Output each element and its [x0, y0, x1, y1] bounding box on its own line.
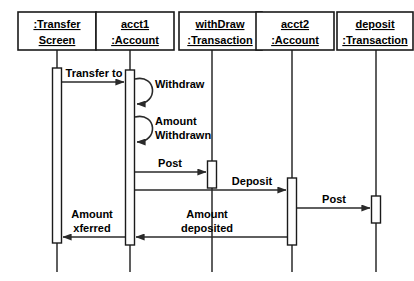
message-labels-layer: Transfer to Withdraw Amount Withdrawn Po… [66, 67, 347, 234]
activation-bar-deposit-transaction [372, 196, 381, 223]
participant-label-transfer-screen-line1: :Transfer [33, 18, 81, 30]
participant-label-acct2-line2: :Account [271, 34, 319, 46]
participant-label-acct1-line1: acct1 [121, 18, 149, 30]
message-label-amount-xferred-line1: Amount [71, 208, 113, 220]
participant-withdraw-transaction[interactable]: withDraw :Transaction [179, 12, 262, 50]
participant-label-withdraw-transaction-line2: :Transaction [187, 34, 253, 46]
message-label-post-withdraw: Post [158, 157, 182, 169]
message-label-amount-withdrawn-self-line1: Amount [155, 115, 197, 127]
participant-label-deposit-transaction-line1: deposit [355, 18, 394, 30]
message-label-post-deposit: Post [322, 193, 346, 205]
activation-bar-acct1 [126, 70, 135, 245]
activation-bar-withdraw-transaction [208, 161, 217, 188]
message-label-deposit: Deposit [232, 175, 273, 187]
participant-label-deposit-transaction-line2: :Transaction [342, 34, 408, 46]
participant-transfer-screen[interactable]: :Transfer Screen [18, 12, 96, 50]
activation-bar-acct2 [288, 178, 297, 245]
participant-acct1[interactable]: acct1 :Account [96, 12, 174, 50]
activation-bar-transfer-screen [53, 68, 62, 243]
participant-acct2[interactable]: acct2 :Account [256, 12, 334, 50]
message-label-transfer-to: Transfer to [66, 67, 123, 79]
message-line-withdraw-self [135, 78, 153, 104]
sequence-diagram-canvas: :Transfer Screen acct1 :Account withDraw… [0, 0, 414, 281]
message-label-amount-deposited-line2: deposited [181, 222, 233, 234]
message-label-amount-xferred-line2: xferred [73, 222, 110, 234]
participant-deposit-transaction[interactable]: deposit :Transaction [337, 12, 413, 50]
participant-boxes-layer: :Transfer Screen acct1 :Account withDraw… [18, 12, 413, 50]
diagram-svg: :Transfer Screen acct1 :Account withDraw… [0, 0, 414, 281]
participant-label-acct1-line2: :Account [111, 34, 159, 46]
message-label-amount-deposited-line1: Amount [186, 208, 228, 220]
participant-label-transfer-screen-line2: Screen [39, 34, 76, 46]
message-line-amount-withdrawn-self [135, 116, 153, 142]
participant-label-withdraw-transaction-line1: withDraw [195, 18, 245, 30]
message-label-amount-withdrawn-self-line2: Withdrawn [155, 129, 211, 141]
participant-label-acct2-line1: acct2 [281, 18, 309, 30]
message-label-withdraw-self: Withdraw [155, 78, 205, 90]
